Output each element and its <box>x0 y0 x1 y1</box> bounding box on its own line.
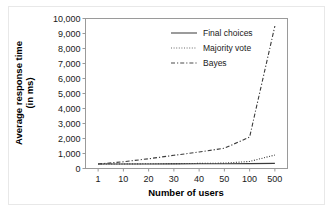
y-tick-label: 7,000 <box>58 59 81 69</box>
y-tick-label: 8,000 <box>58 44 81 54</box>
x-axis-tick-labels: 11020304050100500 <box>96 169 283 184</box>
x-axis-title: Number of users <box>148 187 224 198</box>
y-tick-label: 4,000 <box>58 104 81 114</box>
x-tick-label: 10 <box>118 174 128 184</box>
legend-label-final-choices: Final choices <box>203 28 253 38</box>
line-chart: 01,0002,0003,0004,0005,0006,0007,0008,00… <box>0 0 333 212</box>
y-tick-label: 0 <box>75 164 80 174</box>
y-tick-label: 1,000 <box>58 149 81 159</box>
chart-figure: 01,0002,0003,0004,0005,0006,0007,0008,00… <box>0 0 333 212</box>
x-tick-label: 50 <box>219 174 229 184</box>
x-tick-label: 30 <box>169 174 179 184</box>
x-tick-label: 1 <box>96 174 101 184</box>
plot-area <box>86 19 288 169</box>
y-tick-label: 9,000 <box>58 29 81 39</box>
y-axis-title-line1: Average response time <box>13 41 24 145</box>
y-tick-label: 5,000 <box>58 89 81 99</box>
y-tick-label: 10,000 <box>53 14 81 24</box>
legend-label-bayes: Bayes <box>203 58 227 68</box>
y-tick-label: 2,000 <box>58 134 81 144</box>
y-tick-label: 3,000 <box>58 119 81 129</box>
y-axis-tick-labels: 01,0002,0003,0004,0005,0006,0007,0008,00… <box>53 14 86 174</box>
y-tick-label: 6,000 <box>58 74 81 84</box>
x-tick-label: 40 <box>194 174 204 184</box>
legend-label-majority-vote: Majority vote <box>203 43 251 53</box>
x-tick-label: 100 <box>242 174 257 184</box>
y-axis-title-line2: (in ms) <box>24 77 35 108</box>
x-tick-label: 20 <box>144 174 154 184</box>
x-tick-label: 500 <box>267 174 282 184</box>
